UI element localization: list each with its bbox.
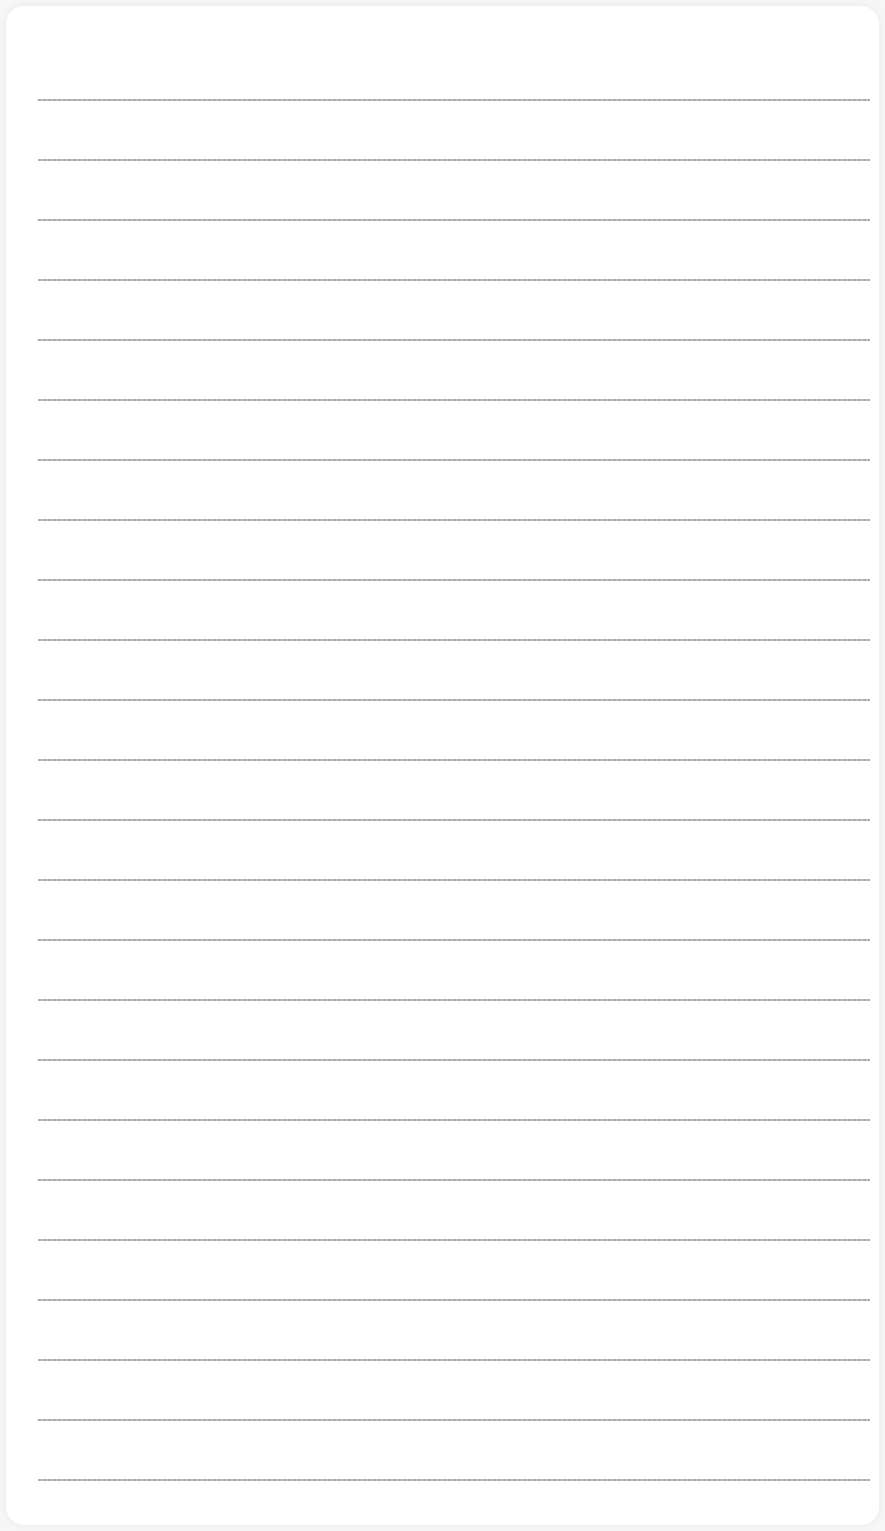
ruled-line bbox=[38, 459, 870, 461]
ruled-line bbox=[38, 1299, 870, 1301]
ruled-line bbox=[38, 1119, 870, 1121]
ruled-line bbox=[38, 1239, 870, 1241]
ruled-line bbox=[38, 579, 870, 581]
ruled-line bbox=[38, 219, 870, 221]
ruled-line bbox=[38, 279, 870, 281]
ruled-line bbox=[38, 1359, 870, 1361]
lined-paper-sheet bbox=[6, 6, 879, 1525]
ruled-line bbox=[38, 879, 870, 881]
ruled-line bbox=[38, 399, 870, 401]
ruled-line bbox=[38, 339, 870, 341]
ruled-line bbox=[38, 1419, 870, 1421]
ruled-line bbox=[38, 519, 870, 521]
ruled-line bbox=[38, 159, 870, 161]
ruled-line bbox=[38, 1179, 870, 1181]
ruled-line bbox=[38, 1479, 870, 1481]
ruled-line bbox=[38, 99, 870, 101]
ruled-line bbox=[38, 759, 870, 761]
ruled-line bbox=[38, 939, 870, 941]
ruled-line bbox=[38, 699, 870, 701]
ruled-line bbox=[38, 1059, 870, 1061]
ruled-line bbox=[38, 819, 870, 821]
ruled-line bbox=[38, 639, 870, 641]
ruled-line bbox=[38, 999, 870, 1001]
